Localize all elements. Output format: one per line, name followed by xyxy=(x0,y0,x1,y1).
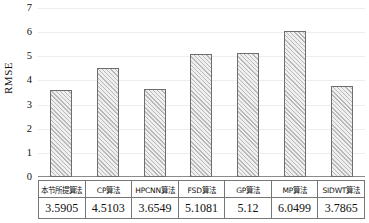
data-table: 本节所提算法CP算法HPCNN算法FSD算法GP算法MP算法SIDWT算法 3.… xyxy=(38,180,365,219)
bar-slot xyxy=(272,8,319,177)
table-cell-category: GP算法 xyxy=(225,181,272,198)
plot-area xyxy=(38,8,365,177)
bar-series xyxy=(38,8,365,177)
table-cell-category: HPCNN算法 xyxy=(132,181,179,198)
table-cell-value: 3.6549 xyxy=(132,198,179,219)
bar-slot xyxy=(225,8,272,177)
y-axis-tick-0: 0 xyxy=(12,172,32,182)
table-cell-value: 6.0499 xyxy=(271,198,318,219)
table-cell-value: 4.5103 xyxy=(85,198,132,219)
bar-slot xyxy=(178,8,225,177)
bar-1 xyxy=(97,68,119,177)
table-row-values: 3.59054.51033.65495.10815.126.04993.7865 xyxy=(39,198,365,219)
bar-2 xyxy=(144,89,166,177)
rmse-bar-chart-figure: RMSE 76543210 本节所提算法CP算法HPCNN算法FSD算法GP算法… xyxy=(0,0,369,223)
bar-5 xyxy=(284,31,306,177)
bar-0 xyxy=(50,90,72,177)
bar-slot xyxy=(85,8,132,177)
table-cell-category: FSD算法 xyxy=(178,181,225,198)
bar-4 xyxy=(237,53,259,177)
y-axis-tick-2: 2 xyxy=(12,124,32,134)
table-cell-value: 5.1081 xyxy=(178,198,225,219)
bar-slot xyxy=(318,8,365,177)
y-axis-tick-1: 1 xyxy=(12,148,32,158)
table-row-categories: 本节所提算法CP算法HPCNN算法FSD算法GP算法MP算法SIDWT算法 xyxy=(39,181,365,198)
y-axis-tick-6: 6 xyxy=(12,27,32,37)
y-axis-tick-labels: 76543210 xyxy=(0,0,38,223)
table-cell-value: 3.5905 xyxy=(39,198,86,219)
y-axis-tick-5: 5 xyxy=(12,51,32,61)
table-cell-category: CP算法 xyxy=(85,181,132,198)
y-axis-tick-3: 3 xyxy=(12,100,32,110)
table-cell-category: 本节所提算法 xyxy=(39,181,86,198)
y-axis-tick-7: 7 xyxy=(12,3,32,13)
table-cell-value: 5.12 xyxy=(225,198,272,219)
bar-3 xyxy=(190,54,212,177)
y-axis-tick-4: 4 xyxy=(12,75,32,85)
bar-6 xyxy=(331,86,353,177)
data-table-wrapper: 本节所提算法CP算法HPCNN算法FSD算法GP算法MP算法SIDWT算法 3.… xyxy=(38,180,365,219)
table-cell-category: SIDWT算法 xyxy=(318,181,365,198)
bar-slot xyxy=(131,8,178,177)
table-cell-value: 3.7865 xyxy=(318,198,365,219)
bar-slot xyxy=(38,8,85,177)
table-cell-category: MP算法 xyxy=(271,181,318,198)
